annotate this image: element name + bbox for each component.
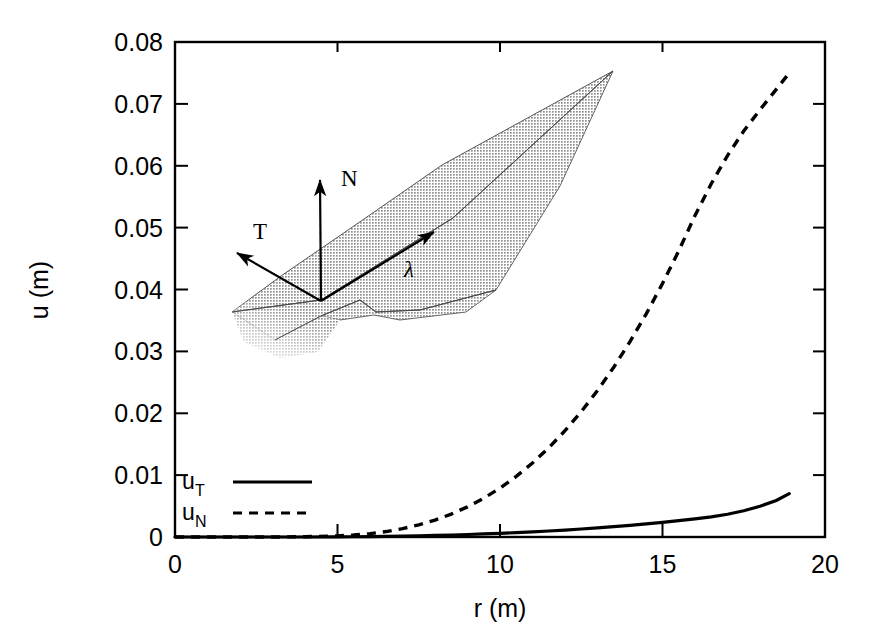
legend-entry-ut[interactable]: u T — [182, 468, 312, 499]
y-axis-title: u (m) — [25, 261, 53, 319]
x-axis-title: r (m) — [474, 594, 527, 622]
x-tick-label: 0 — [168, 550, 182, 578]
y-tick-label: 0 — [149, 523, 163, 551]
x-tick-label: 5 — [331, 550, 345, 578]
y-tick-label: 0.04 — [114, 276, 163, 304]
inset-label-t: T — [253, 219, 267, 244]
y-tick-label: 0.02 — [114, 399, 163, 427]
y-tick-label: 0.06 — [114, 152, 163, 180]
chart-svg: N T λ — [0, 0, 887, 642]
inset-label-n: N — [341, 166, 358, 191]
figure-container: N T λ — [0, 0, 887, 642]
inset-vector-n — [320, 180, 321, 301]
y-axis-ticks — [175, 104, 188, 475]
y-tick-label: 0.01 — [114, 461, 163, 489]
y-tick-label: 0.05 — [114, 214, 163, 242]
x-tick-label: 20 — [811, 550, 839, 578]
x-axis-ticks-top — [338, 42, 663, 52]
y-tick-label: 0.03 — [114, 337, 163, 365]
y-tick-label: 0.07 — [114, 90, 163, 118]
y-axis-ticks-right — [813, 104, 825, 475]
x-tick-labels: 0 5 10 15 20 — [168, 550, 839, 578]
inset-diagram: N T λ — [210, 71, 613, 372]
inset-fade-overlay — [210, 300, 340, 372]
y-tick-label: 0.08 — [114, 28, 163, 56]
y-tick-labels: 0.08 0.07 0.06 0.05 0.04 0.03 0.02 0.01 … — [114, 28, 163, 551]
x-tick-label: 10 — [486, 550, 514, 578]
legend-entry-un[interactable]: u N — [182, 499, 312, 530]
legend-label-un: u — [182, 499, 195, 525]
inset-label-lambda: λ — [403, 257, 414, 282]
x-tick-label: 15 — [649, 550, 677, 578]
legend: u T u N — [182, 468, 312, 530]
legend-subscript-ut: T — [195, 482, 205, 499]
legend-subscript-un: N — [195, 513, 207, 530]
legend-label-ut: u — [182, 468, 195, 494]
